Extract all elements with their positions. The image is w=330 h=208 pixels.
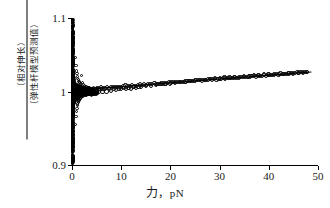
- data-point: [72, 106, 75, 109]
- y-axis-label-numerator: （相对伸长）: [16, 35, 26, 93]
- figure-scatter-plot: 01020304050 0.911.1 力，pN （相对伸长） （弹性杆模型预测…: [0, 0, 330, 208]
- data-point: [80, 74, 83, 77]
- x-tick-label-0: 0: [57, 170, 87, 182]
- x-axis-label-unit: ，pN: [158, 187, 184, 199]
- x-tick-label-10: 10: [106, 170, 136, 182]
- data-point: [72, 99, 75, 102]
- data-point: [72, 95, 75, 98]
- data-point: [75, 107, 78, 110]
- x-axis-label: 力，pN: [0, 183, 330, 201]
- x-tick-label-50: 50: [303, 170, 330, 182]
- data-point: [71, 47, 74, 50]
- data-point: [72, 57, 75, 60]
- data-point: [72, 52, 75, 55]
- x-tick-label-40: 40: [254, 170, 284, 182]
- y-tick-label-1: 1: [40, 86, 66, 98]
- data-point: [78, 90, 81, 93]
- x-tick-label-30: 30: [205, 170, 235, 182]
- y-axis-label-denominator: （弹性杆模型预测值）: [29, 17, 39, 111]
- y-tick-label-1.1: 1.1: [40, 12, 66, 24]
- x-axis-line: [72, 165, 318, 166]
- data-point: [82, 93, 85, 96]
- data-point: [71, 111, 74, 114]
- data-point: [71, 72, 74, 75]
- data-point: [72, 126, 75, 129]
- plot-data-area: [72, 18, 318, 165]
- data-point: [71, 20, 74, 23]
- data-point: [71, 66, 74, 69]
- data-point: [72, 39, 75, 42]
- y-axis-label: （相对伸长） （弹性杆模型预测值）: [16, 0, 39, 140]
- fraction-bar-icon: [27, 0, 28, 140]
- data-point: [75, 110, 78, 113]
- data-point: [71, 25, 74, 28]
- y-tick-label-0.9: 0.9: [40, 159, 66, 171]
- y-tick-0.9: [68, 165, 72, 166]
- y-tick-1.1: [68, 18, 72, 19]
- x-tick-label-20: 20: [155, 170, 185, 182]
- data-point: [71, 155, 74, 158]
- x-axis-label-cjk: 力: [146, 186, 159, 200]
- data-point: [91, 90, 94, 93]
- data-point: [76, 93, 79, 96]
- data-point: [71, 132, 74, 135]
- data-point: [71, 122, 74, 125]
- y-tick-1: [68, 92, 72, 93]
